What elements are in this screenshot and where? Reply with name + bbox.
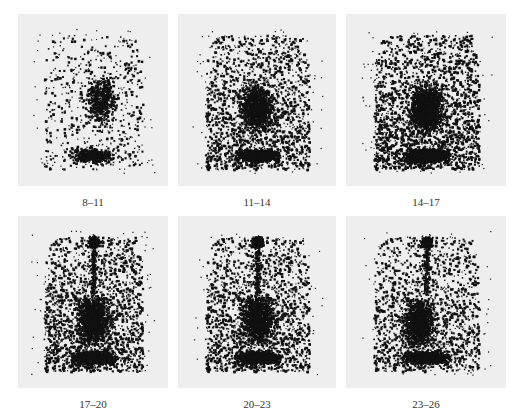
scan-image (346, 216, 506, 388)
scan-image (178, 216, 336, 388)
panel-label: 14–17 (341, 196, 511, 208)
scan-panel-1 (18, 14, 168, 186)
scan-panel-3 (346, 14, 506, 186)
panel-label: 8–11 (8, 196, 178, 208)
scan-panel-5 (178, 216, 336, 388)
scan-image (18, 14, 168, 186)
panel-label: 17–20 (8, 398, 178, 410)
scan-panel-2 (178, 14, 336, 186)
scan-panel-4 (18, 216, 168, 388)
panel-label: 11–14 (172, 196, 342, 208)
scan-image (178, 14, 336, 186)
panel-label: 23–26 (341, 398, 511, 410)
scan-image (346, 14, 506, 186)
panel-label: 20–23 (172, 398, 342, 410)
scan-image (18, 216, 168, 388)
scan-panel-6 (346, 216, 506, 388)
